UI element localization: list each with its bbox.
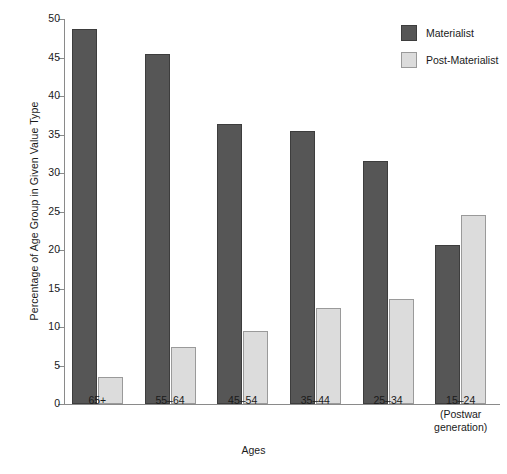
bar-post-materialist (389, 299, 414, 404)
bar-materialist (363, 161, 388, 404)
bar-group (217, 19, 268, 404)
x-tick-label: 15–24 (Postwar generation) (411, 394, 507, 435)
legend-item: Materialist (401, 24, 498, 41)
bar-group (290, 19, 341, 404)
bar-materialist (290, 131, 315, 404)
y-tick-label: 50 (48, 12, 60, 25)
y-tick-label: 15 (48, 282, 60, 295)
bar-materialist (72, 29, 97, 404)
y-tick-label: 35 (48, 128, 60, 141)
legend-label: Post-Materialist (426, 54, 498, 66)
y-tick-label: 45 (48, 51, 60, 64)
y-tick-label: 40 (48, 89, 60, 102)
legend-swatch-icon (401, 25, 417, 41)
bar-post-materialist (461, 215, 486, 404)
bar-materialist (217, 124, 242, 404)
bar-materialist (435, 245, 460, 404)
legend-label: Materialist (426, 27, 474, 39)
y-tick-label: 25 (48, 205, 60, 218)
bar-materialist (145, 54, 170, 404)
bar-chart: Percentage of Age Group in Given Value T… (0, 0, 507, 474)
bar-group (145, 19, 196, 404)
y-axis-line (64, 19, 65, 404)
y-tick-label: 10 (48, 320, 60, 333)
bar-post-materialist (316, 308, 341, 404)
legend-item: Post-Materialist (401, 51, 498, 68)
y-axis-title: Percentage of Age Group in Given Value T… (28, 81, 40, 341)
chart-legend: MaterialistPost-Materialist (401, 24, 498, 78)
x-axis-title: Ages (0, 444, 507, 456)
y-tick-label: 30 (48, 166, 60, 179)
y-tick-label: 20 (48, 243, 60, 256)
y-tick-label: 5 (54, 359, 60, 372)
legend-swatch-icon (401, 52, 417, 68)
bar-group (72, 19, 123, 404)
